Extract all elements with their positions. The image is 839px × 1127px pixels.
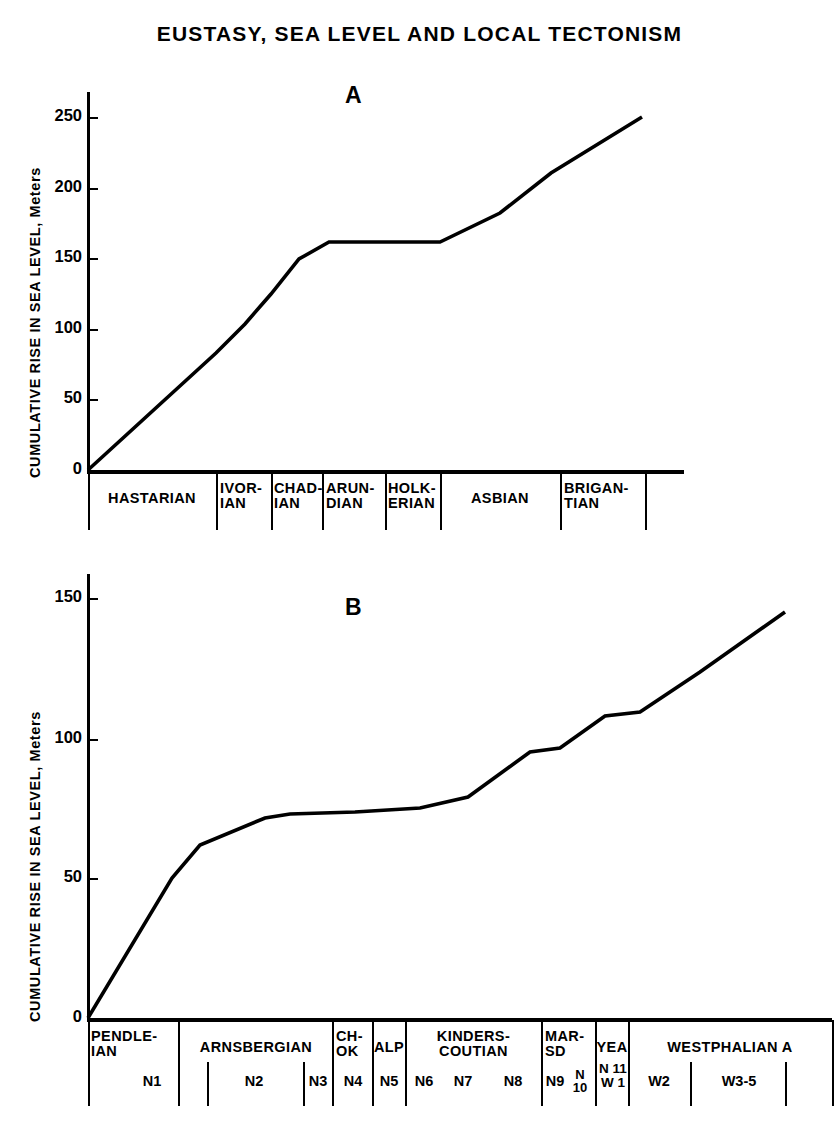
panel-b-subdivider-n1-n2: [207, 1062, 209, 1106]
panel-b-marineband-w2: W2: [632, 1074, 686, 1089]
panel-b-stage-chok: CH- OK: [336, 1029, 374, 1060]
panel-b-stage-pendleian: PENDLE- IAN: [91, 1029, 177, 1060]
panel-b-stage-arnsbergian: ARNSBERGIAN: [181, 1040, 331, 1055]
panel-b-stage-kinderscoutian: KINDERS- COUTIAN: [407, 1029, 540, 1060]
panel-b-marineband-n2: N2: [228, 1074, 280, 1089]
panel-b-divider-2: [332, 1020, 334, 1106]
panel-b-divider-1: [178, 1020, 180, 1106]
panel-b-marineband-n6: N6: [408, 1074, 440, 1089]
panel-b-divider-5: [541, 1020, 543, 1106]
panel-b-subdivider-w2-w3: [690, 1062, 692, 1106]
panel-b-marineband-n8: N8: [497, 1074, 529, 1089]
panel-b-divider-0: [88, 1020, 90, 1106]
panel-b-stage-yea: YEA: [595, 1040, 629, 1055]
panel-b-marineband-n10: N 10: [566, 1068, 594, 1095]
panel-b-marineband-n4: N4: [336, 1074, 370, 1089]
panel-b-band-top: [87, 1020, 832, 1022]
figure-eustasy-sea-level: EUSTASY, SEA LEVEL AND LOCAL TECTONISM A…: [0, 0, 839, 1127]
panel-b-stage-marsd: MAR- SD: [545, 1029, 597, 1060]
panel-b-marineband-n1: N1: [128, 1074, 176, 1089]
panel-b-stage-westphalian-a: WESTPHALIAN A: [630, 1040, 830, 1055]
panel-b-subdivider-w3-end: [785, 1062, 787, 1106]
panel-b-curve: [0, 0, 839, 1127]
panel-b-marineband-n11-w1: N 11 W 1: [596, 1062, 630, 1090]
panel-b-stage-alp: ALP: [372, 1040, 406, 1055]
panel-b-marineband-w3-5: W3-5: [696, 1074, 782, 1089]
panel-b-marineband-n5: N5: [374, 1074, 404, 1089]
panel-b-marineband-n3: N3: [305, 1074, 331, 1089]
panel-b-divider-8: [832, 1020, 834, 1106]
panel-b-marineband-n7: N7: [447, 1074, 479, 1089]
